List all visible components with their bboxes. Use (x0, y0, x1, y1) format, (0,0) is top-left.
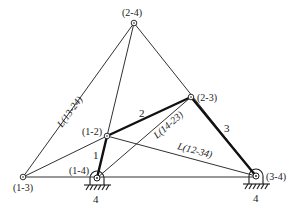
pole-marker-12 (104, 133, 110, 139)
pole-label-23: (2-3) (197, 92, 217, 104)
line-label-l12-34: L(12-34) (175, 140, 214, 161)
link-label-1: 1 (93, 149, 99, 161)
ground-label-right: 4 (253, 192, 259, 204)
pole-markers (20, 20, 194, 180)
link-label-2: 2 (139, 107, 145, 119)
pole-label-34: (3-4) (266, 171, 286, 183)
ground-label-left: 4 (93, 193, 99, 205)
pole-marker-24 (131, 20, 137, 26)
pole-marker-23 (188, 94, 194, 100)
pole-label-24: (2-4) (122, 7, 142, 19)
construction-lines (23, 23, 256, 178)
pole-label-13: (1-3) (13, 182, 33, 194)
pole-marker-13 (20, 174, 26, 180)
line-label-l13-24: L(13-24) (54, 93, 86, 130)
linkage-diagram: (2-4) (2-3) (1-2) (1-4) (1-3) (3-4) 1 2 … (0, 0, 301, 212)
link-label-3: 3 (224, 122, 230, 134)
pole-label-12: (1-2) (82, 126, 102, 138)
link-3 (191, 97, 256, 176)
pole-label-14: (1-4) (69, 165, 89, 177)
